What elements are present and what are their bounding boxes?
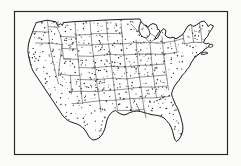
us-map-svg: [0, 0, 241, 166]
figure-container: [0, 0, 241, 166]
